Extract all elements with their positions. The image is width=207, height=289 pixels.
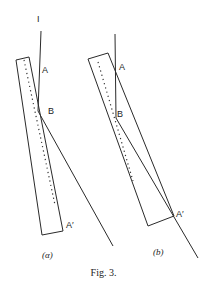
incident-ray-a	[38, 31, 41, 111]
point-b-label-b: B	[117, 109, 123, 119]
point-a-prime-label-a: A′	[66, 220, 74, 230]
point-a-prime-label-b: A′	[176, 209, 184, 219]
figure-3-diagram: I A B A′ (α) A B A′ (b)	[0, 0, 207, 289]
figure-caption: Fig. 3.	[0, 267, 207, 278]
panel-a-label: (α)	[42, 250, 53, 260]
refracted-ray-b	[116, 118, 198, 258]
point-a-label-b: A	[119, 62, 125, 72]
panel-a: I A B A′ (α)	[16, 14, 113, 260]
point-b-label-a: B	[48, 106, 54, 116]
incident-label-a: I	[37, 14, 40, 24]
incident-ray-b	[115, 34, 116, 118]
refracted-ray-a	[38, 111, 113, 246]
panel-b-label: (b)	[153, 247, 164, 257]
point-a-label-a: A	[42, 65, 48, 75]
panel-b: A B A′ (b)	[88, 34, 198, 258]
slab-b	[88, 53, 174, 226]
